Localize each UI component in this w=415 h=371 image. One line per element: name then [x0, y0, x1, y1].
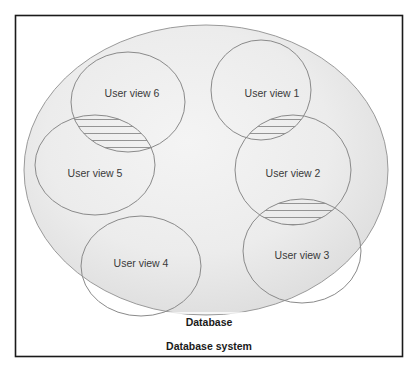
- user-view-6-label: User view 6: [105, 87, 160, 99]
- database-system-label: Database system: [166, 340, 252, 352]
- user-view-4-label: User view 4: [114, 257, 169, 269]
- user-view-2-label: User view 2: [266, 167, 321, 179]
- database-label: Database: [186, 316, 233, 328]
- user-view-5-label: User view 5: [68, 167, 123, 179]
- database-system-diagram: User view 6 User view 1 User view 5 User…: [0, 0, 415, 371]
- user-view-1-label: User view 1: [245, 87, 300, 99]
- user-view-3-label: User view 3: [275, 249, 330, 261]
